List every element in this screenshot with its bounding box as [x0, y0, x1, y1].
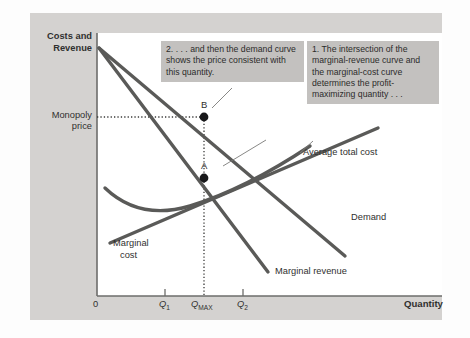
marginal-cost-label-line1: Marginal — [113, 238, 149, 249]
point-b-label: B — [201, 99, 207, 110]
marginal-revenue-label: Marginal revenue — [275, 266, 347, 277]
origin-label: 0 — [93, 299, 98, 310]
callout-2-box: 2. . . . and then the demand curve shows… — [161, 41, 304, 82]
callout-1-box: 1. The intersection of the marginal-reve… — [307, 41, 439, 104]
point-a-marker — [200, 174, 209, 183]
marginal-cost-label-line2: cost — [120, 250, 137, 261]
x-tick-label-q2: Q2 — [237, 299, 248, 311]
x-tick-label-q1-sub: 1 — [166, 304, 170, 311]
x-tick-label-qmax-sub: MAX — [198, 304, 212, 311]
point-b-marker — [200, 113, 209, 122]
monopoly-price-label-line1: Monopoly — [26, 110, 92, 122]
monopoly-price-label-line2: price — [26, 121, 92, 133]
x-tick-label-q1: Q1 — [159, 299, 170, 311]
point-a-label: A — [201, 160, 207, 171]
callout-1-leader-line — [223, 140, 266, 166]
x-axis-title: Quantity — [404, 298, 443, 309]
demand-label: Demand — [351, 212, 386, 223]
callout-2-leader-line — [212, 88, 232, 108]
y-axis-title: Costs and Revenue — [28, 31, 92, 54]
x-tick-label-qmax: QMAX — [191, 299, 213, 311]
monopoly-diagram-figure: Costs and Revenue Monopoly price Quantit… — [0, 0, 470, 338]
average-total-cost-label: Average total cost — [303, 147, 377, 158]
x-tick-label-q2-sub: 2 — [244, 304, 248, 311]
